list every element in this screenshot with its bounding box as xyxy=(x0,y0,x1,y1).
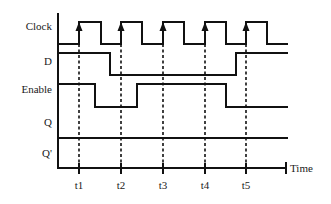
rising-edge-arrow-icon xyxy=(118,22,125,31)
rising-edge-arrow-icon xyxy=(243,22,250,31)
rising-edge-arrow-icon xyxy=(160,22,167,31)
rising-edge-arrow-icon xyxy=(202,22,209,31)
tick-label-t3: t3 xyxy=(159,179,168,191)
tick-label-t4: t4 xyxy=(201,179,210,191)
timing-diagram-svg: Clock D Enable Q Q' Time xyxy=(0,0,331,204)
tick-label-t5: t5 xyxy=(242,179,251,191)
signal-label-clock: Clock xyxy=(26,20,53,32)
time-axis-label: Time xyxy=(290,162,313,174)
signal-label-d: D xyxy=(44,55,52,67)
rising-edge-arrow-icon xyxy=(76,22,83,31)
tick-label-t2: t2 xyxy=(117,179,126,191)
d-waveform xyxy=(58,53,288,75)
signal-label-q: Q xyxy=(44,116,52,128)
tick-label-t1: t1 xyxy=(75,179,84,191)
signal-label-enable: Enable xyxy=(21,83,52,95)
signal-label-qbar: Q' xyxy=(42,147,52,159)
timing-diagram: Clock D Enable Q Q' Time xyxy=(0,0,331,204)
enable-waveform xyxy=(58,84,288,107)
clock-waveform xyxy=(58,22,288,44)
